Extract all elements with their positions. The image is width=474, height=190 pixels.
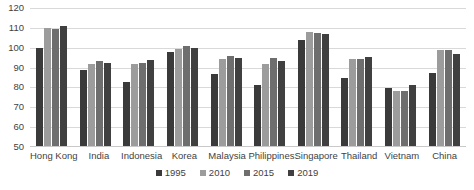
bar	[44, 28, 51, 147]
legend-item[interactable]: 2010	[200, 168, 230, 178]
legend-label: 1995	[165, 168, 186, 178]
bar	[96, 61, 103, 147]
x-axis-category-label: Vietnam	[380, 149, 423, 163]
bar	[306, 32, 313, 147]
x-axis-category-label: Korea	[163, 149, 206, 163]
x-axis-category-label: Hong Kong	[30, 149, 78, 163]
bar	[445, 50, 452, 147]
bar	[254, 85, 261, 147]
bar	[131, 64, 138, 147]
bar	[52, 29, 59, 147]
bar	[123, 82, 130, 147]
plot-area	[30, 8, 466, 147]
bar	[349, 59, 356, 147]
bar-group	[161, 8, 205, 147]
y-axis-tick-label: 90	[0, 63, 24, 73]
x-axis-category-label: Philippines	[248, 149, 294, 163]
bar	[175, 49, 182, 147]
bar-group	[117, 8, 161, 147]
bar	[235, 58, 242, 147]
bar	[357, 59, 364, 147]
legend-swatch-icon	[200, 170, 206, 176]
bar	[437, 50, 444, 147]
y-axis-tick-label: 50	[0, 142, 24, 152]
bar-group	[422, 8, 466, 147]
y-axis-tick-label: 110	[0, 23, 24, 33]
bar	[314, 33, 321, 147]
bar	[298, 40, 305, 147]
bar	[270, 58, 277, 147]
bar	[183, 46, 190, 147]
legend-item[interactable]: 2019	[288, 168, 318, 178]
bar	[341, 78, 348, 148]
bar-groups	[30, 8, 466, 147]
legend-swatch-icon	[156, 170, 162, 176]
legend-label: 2019	[297, 168, 318, 178]
legend-label: 2010	[209, 168, 230, 178]
bar	[322, 34, 329, 147]
bar-group	[204, 8, 248, 147]
bar-group	[74, 8, 118, 147]
bar	[453, 54, 460, 147]
x-axis-category-label: Thailand	[338, 149, 381, 163]
y-axis-tick-label: 60	[0, 122, 24, 132]
bar	[104, 63, 111, 147]
bar-group	[248, 8, 292, 147]
x-axis-category-label: Malaysia	[206, 149, 249, 163]
bar	[36, 48, 43, 147]
bar	[278, 61, 285, 147]
bar	[227, 56, 234, 147]
y-axis-tick-label: 120	[0, 3, 24, 13]
bar	[429, 73, 436, 147]
legend: 1995201020152019	[0, 168, 474, 178]
y-axis-tick-label: 70	[0, 103, 24, 113]
x-axis-category-label: Singapore	[294, 149, 337, 163]
bar-group	[379, 8, 423, 147]
bar	[80, 70, 87, 147]
y-axis-tick-label: 80	[0, 83, 24, 93]
x-axis-category-label: China	[423, 149, 466, 163]
bar	[385, 88, 392, 147]
bar	[262, 64, 269, 147]
bar	[219, 59, 226, 147]
bar	[167, 52, 174, 147]
bar-group	[292, 8, 336, 147]
bar	[60, 26, 67, 147]
bar	[88, 64, 95, 147]
y-axis-tick-label: 100	[0, 43, 24, 53]
bar	[365, 57, 372, 147]
bar	[393, 91, 400, 147]
legend-swatch-icon	[244, 170, 250, 176]
x-axis-category-label: Indonesia	[120, 149, 163, 163]
legend-item[interactable]: 1995	[156, 168, 186, 178]
bar	[191, 48, 198, 147]
x-axis-labels: Hong KongIndiaIndonesiaKoreaMalaysiaPhil…	[30, 149, 466, 163]
legend-swatch-icon	[288, 170, 294, 176]
x-axis-line	[30, 146, 466, 147]
bar	[211, 74, 218, 147]
x-axis-category-label: India	[78, 149, 121, 163]
bar	[139, 63, 146, 147]
bar	[409, 85, 416, 147]
bar	[401, 91, 408, 147]
bar	[147, 60, 154, 147]
bar-chart: 5060708090100110120 Hong KongIndiaIndone…	[0, 0, 474, 190]
bar-group	[30, 8, 74, 147]
bar-group	[335, 8, 379, 147]
legend-label: 2015	[253, 168, 274, 178]
legend-item[interactable]: 2015	[244, 168, 274, 178]
